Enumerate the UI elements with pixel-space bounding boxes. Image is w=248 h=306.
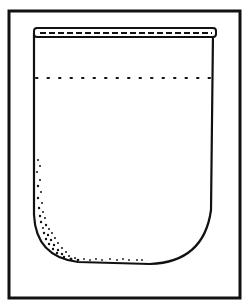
vessel-outline [34,33,213,264]
outer-frame [9,11,240,298]
vessel-diagram [0,0,248,306]
diagram-canvas [0,0,248,306]
sediment [36,159,143,261]
